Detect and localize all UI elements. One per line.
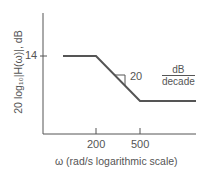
x-tick-label-500: 500 xyxy=(131,138,149,150)
y-tick-label-14: 14 xyxy=(25,49,37,61)
slope-units: dB decade xyxy=(162,64,195,87)
slope-units-numerator: dB xyxy=(162,64,195,76)
x-axis-label: ω (rad/s logarithmic scale) xyxy=(55,155,178,167)
slope-units-denominator: decade xyxy=(162,76,195,87)
slope-value: 20 xyxy=(130,70,142,82)
x-tick-label-200: 200 xyxy=(87,138,105,150)
y-axis-label: 20 log₁₀|H(ω)|, dB xyxy=(12,2,24,142)
